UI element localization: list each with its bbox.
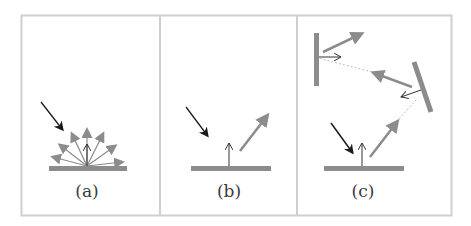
dotted-path bbox=[318, 58, 372, 72]
reflected-ray bbox=[240, 116, 267, 151]
mirror-normal bbox=[401, 90, 421, 97]
panel-c: (c) bbox=[314, 33, 431, 201]
secondary-mirror bbox=[314, 33, 319, 86]
panel-b: (b) bbox=[186, 107, 271, 201]
surface bbox=[49, 166, 127, 171]
reflected-ray bbox=[374, 73, 412, 87]
surface bbox=[324, 166, 404, 171]
panel-label: (b) bbox=[217, 181, 241, 201]
panel-label: (c) bbox=[352, 181, 375, 201]
reflected-ray bbox=[370, 122, 397, 157]
reflected-ray bbox=[323, 34, 361, 52]
surface bbox=[191, 166, 271, 171]
incident-ray bbox=[331, 123, 352, 152]
dotted-path bbox=[399, 100, 416, 119]
incident-ray bbox=[186, 107, 207, 135]
reflection-diagram: (a) (b) (c) bbox=[0, 0, 471, 226]
panel-label: (a) bbox=[75, 181, 98, 201]
tertiary-mirror bbox=[414, 62, 431, 112]
panel-a: (a) bbox=[41, 102, 127, 201]
incident-ray bbox=[41, 102, 62, 129]
